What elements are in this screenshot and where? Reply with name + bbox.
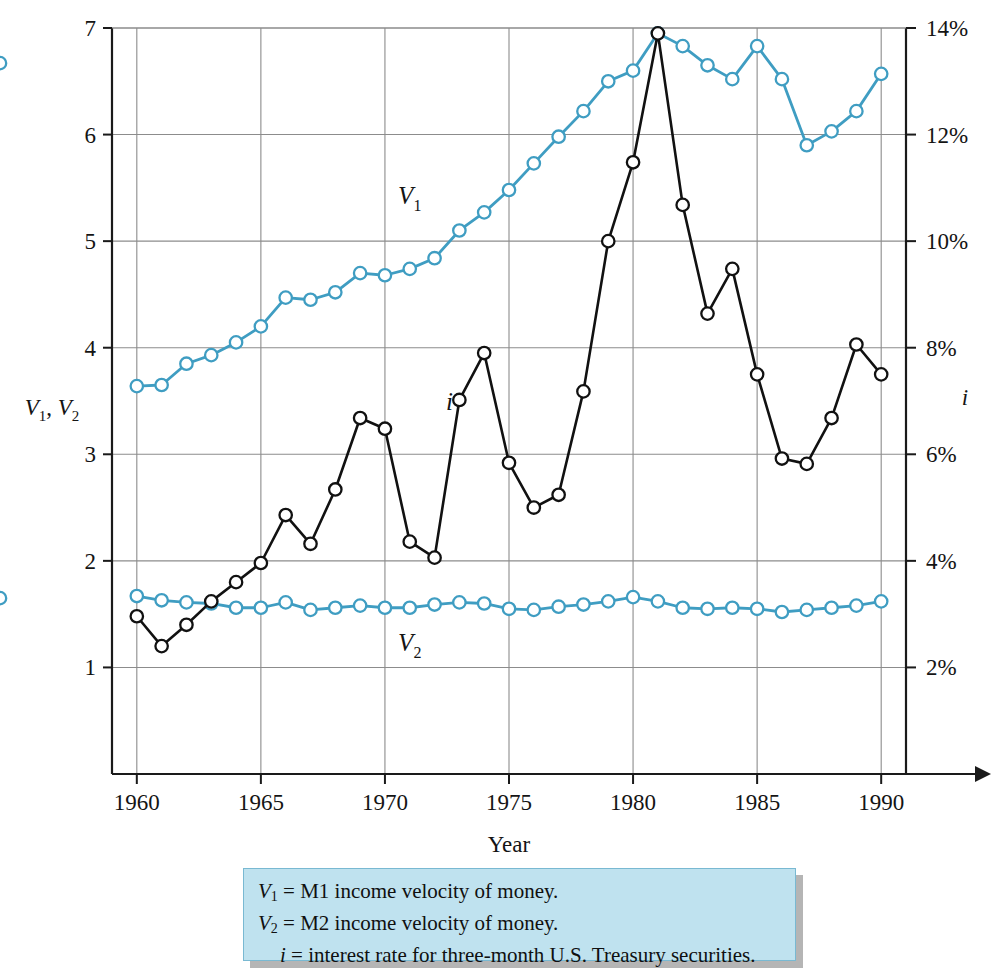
data-point-marker-V2 [131,590,143,602]
data-point-marker-V2 [776,606,788,618]
data-point-marker-i [131,610,143,622]
data-point-marker-i [652,27,664,39]
legend-definitions-box: V1 = M1 income velocity of money.V2 = M2… [243,868,796,961]
data-point-marker-i [230,576,242,588]
data-point-marker-V1 [255,320,267,332]
data-point-marker-V1 [503,184,515,196]
data-point-marker-V2 [329,602,341,614]
data-point-marker-i [329,483,341,495]
series-label-V1: V1 [398,182,421,214]
data-point-marker-i [304,538,316,550]
series-V1 [0,27,887,392]
x-axis-tick-label: 1960 [114,790,160,815]
data-point-marker-V1 [379,269,391,281]
data-point-marker-V2 [503,603,515,615]
data-point-marker-V2 [155,594,167,606]
data-point-marker-i [428,551,440,563]
y-axis-right-tick-label: 14% [926,16,968,41]
data-point-marker-V1 [205,349,217,361]
data-point-marker-V2 [676,602,688,614]
data-point-marker-V2 [701,603,713,615]
data-point-marker-V2 [304,604,316,616]
data-point-marker-V2 [726,602,738,614]
legend-line-2: V2 = M2 income velocity of money. [258,910,795,942]
data-point-marker-V1 [0,57,6,69]
data-point-marker-i [850,338,862,350]
data-point-marker-V2 [602,595,614,607]
series-label-i: i [446,388,453,415]
y-axis-left-tick-label: 6 [85,123,97,148]
data-point-marker-i [279,509,291,521]
data-point-marker-V1 [676,40,688,52]
x-axis-tick-label: 1970 [362,790,408,815]
x-axis-title: Year [488,832,531,857]
y-axis-right-tick-label: 8% [926,336,957,361]
data-point-marker-i [577,385,589,397]
x-axis-tick-label: 1990 [858,790,904,815]
legend-symbol: V [258,911,271,935]
data-point-marker-i [453,394,465,406]
data-point-marker-V1 [801,139,813,151]
data-point-marker-V1 [776,73,788,85]
data-point-marker-i [354,412,366,424]
data-point-marker-V1 [478,206,490,218]
data-point-marker-i [627,156,639,168]
data-point-marker-V2 [528,604,540,616]
data-point-marker-V1 [428,252,440,264]
data-point-marker-i [726,263,738,275]
legend-line-1: V1 = M1 income velocity of money. [258,878,795,910]
data-point-marker-V2 [801,604,813,616]
data-point-marker-V1 [230,336,242,348]
y-axis-right-title: i [962,385,968,410]
y-axis-right-tick-label: 2% [926,655,957,680]
data-point-marker-V1 [354,267,366,279]
data-point-marker-V1 [329,286,341,298]
data-point-marker-V2 [453,596,465,608]
data-point-marker-i [528,501,540,513]
series-label-V2: V2 [398,629,421,661]
data-point-marker-V1 [453,224,465,236]
y-axis-right-tick-label: 4% [926,549,957,574]
legend-description: = M2 income velocity of money. [278,911,559,935]
y-axis-left-title: V1, V2 [25,395,80,424]
data-point-marker-V2 [627,591,639,603]
data-point-marker-V1 [726,73,738,85]
y-axis-left-tick-label: 2 [85,549,97,574]
data-point-marker-i [602,235,614,247]
y-axis-right-tick-label: 6% [926,442,957,467]
x-axis-tick-label: 1980 [610,790,656,815]
legend-description: = interest rate for three-month U.S. Tre… [286,943,756,967]
data-point-marker-i [552,489,564,501]
y-axis-left-tick-label: 4 [85,336,97,361]
data-point-marker-i [825,412,837,424]
data-point-marker-V2 [428,598,440,610]
data-point-marker-V1 [552,131,564,143]
data-point-marker-i [180,619,192,631]
data-point-marker-V1 [751,40,763,52]
data-point-marker-V2 [379,602,391,614]
data-point-marker-V2 [825,602,837,614]
y-axis-left-tick-label: 3 [85,442,97,467]
x-axis-tick-label: 1985 [734,790,780,815]
y-axis-right-tick-label: 12% [926,123,968,148]
data-point-marker-i [776,452,788,464]
data-point-marker-i [205,595,217,607]
data-point-marker-V1 [528,157,540,169]
data-point-marker-V1 [627,64,639,76]
data-point-marker-i [478,347,490,359]
data-point-marker-V1 [404,263,416,275]
legend-symbol: V [258,879,271,903]
y-axis-left-tick-label: 1 [85,655,97,680]
legend-symbol-subscript: 1 [271,889,278,904]
data-point-marker-V2 [478,597,490,609]
data-point-marker-V2 [354,599,366,611]
data-point-marker-V2 [850,599,862,611]
x-axis-arrowhead [975,766,991,782]
data-point-marker-i [676,199,688,211]
data-point-marker-i [379,423,391,435]
data-point-marker-V1 [279,291,291,303]
y-axis-left-tick-label: 5 [85,229,97,254]
legend-description: = M1 income velocity of money. [278,879,559,903]
